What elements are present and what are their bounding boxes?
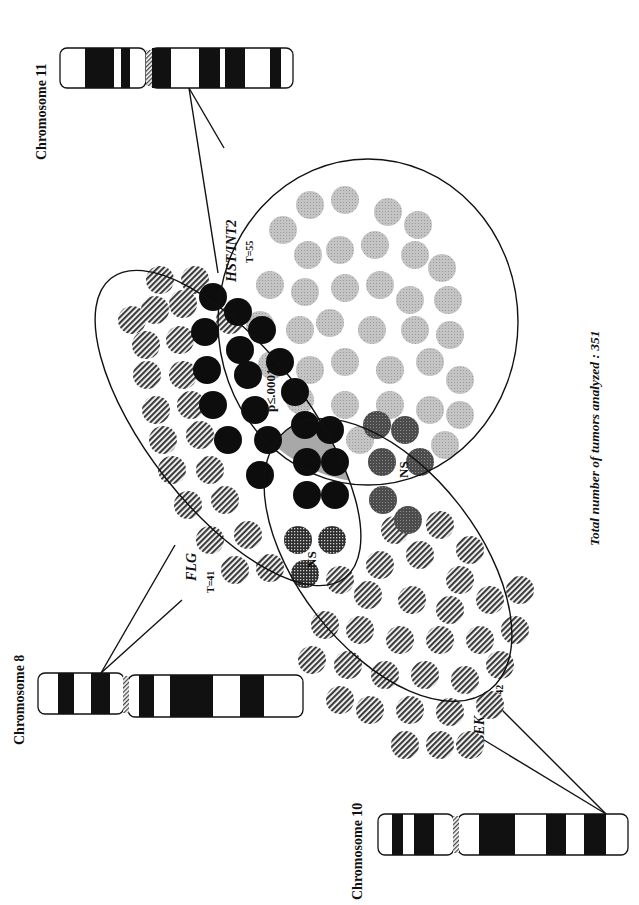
tumor-dot-bek-only bbox=[456, 536, 484, 564]
leader-line bbox=[101, 545, 175, 673]
chromosome-11-label: Chromosome 11 bbox=[34, 63, 49, 160]
tumor-dot-hst-bek bbox=[394, 506, 422, 534]
tumor-dot-triple bbox=[321, 481, 349, 509]
tumor-dot-hst-only bbox=[294, 241, 322, 269]
leader-line bbox=[101, 600, 182, 673]
gene-label-flg: FLG bbox=[184, 553, 199, 582]
tumor-dot-triple bbox=[293, 448, 321, 476]
tumor-dot-hst-only bbox=[404, 211, 432, 239]
tumor-dot-hst-only bbox=[331, 391, 359, 419]
tumor-dot-bek-only bbox=[426, 511, 454, 539]
tumor-dot-hst-flg bbox=[199, 391, 227, 419]
chromosome-11-ideogram bbox=[60, 48, 293, 88]
tumor-dot-flg-only bbox=[132, 331, 160, 359]
tumor-dot-bek-only bbox=[371, 661, 399, 689]
tumor-dot-bek-only bbox=[456, 731, 484, 759]
band bbox=[240, 675, 264, 717]
tumor-dot-bek-only bbox=[326, 566, 354, 594]
tumor-dot-flg-only bbox=[118, 306, 146, 334]
tumor-dot-hst-only bbox=[416, 396, 444, 424]
tumor-dot-hst-only bbox=[434, 286, 462, 314]
tumor-dot-hst-only bbox=[416, 348, 444, 376]
tumor-dot-hst-flg bbox=[234, 361, 262, 389]
tumor-dot-hst-flg bbox=[281, 378, 309, 406]
tumor-dot-hst-only bbox=[401, 316, 429, 344]
band bbox=[225, 48, 245, 88]
tumor-dot-hst-only bbox=[374, 198, 402, 226]
tumor-dot-bek-only bbox=[426, 626, 454, 654]
tumor-dot-flg-bek bbox=[318, 526, 346, 554]
tumor-dot-hst-only bbox=[291, 278, 319, 306]
tumor-dot-hst-only bbox=[269, 216, 297, 244]
tumor-dot-triple bbox=[321, 448, 349, 476]
tumor-dot-bek-only bbox=[426, 731, 454, 759]
band bbox=[392, 814, 403, 855]
tumor-dot-hst-only bbox=[286, 316, 314, 344]
chromosome-10-ideogram bbox=[378, 814, 628, 855]
tumor-dot-bek-only bbox=[446, 566, 474, 594]
chromosome-10: Chromosome 10 bbox=[350, 703, 628, 900]
tumor-dot-hst-only bbox=[361, 231, 389, 259]
tumor-dot-flg-bek bbox=[284, 526, 312, 554]
stat-label-hst-bek: NS bbox=[396, 461, 411, 478]
centromere bbox=[146, 50, 152, 86]
tumor-dot-hst-bek bbox=[368, 448, 396, 476]
band bbox=[414, 814, 434, 855]
tumor-count-hst-int2: T=55 bbox=[244, 241, 255, 263]
tumor-dot-hst-bek bbox=[391, 416, 419, 444]
tumor-dot-hst-only bbox=[358, 316, 386, 344]
tumor-dot-bek-only bbox=[436, 698, 464, 726]
tumor-dot-bek-only bbox=[346, 616, 374, 644]
tumor-dot-hst-only bbox=[256, 271, 284, 299]
tumor-dot-hst-flg bbox=[199, 283, 227, 311]
tumor-dot-hst-only bbox=[376, 356, 404, 384]
band bbox=[85, 48, 114, 88]
tumor-dot-hst-flg bbox=[193, 356, 221, 384]
tumor-dot-flg-only bbox=[166, 326, 194, 354]
tumor-dot-flg-only bbox=[211, 486, 239, 514]
tumor-dot-triple bbox=[293, 481, 321, 509]
tumor-dot-hst-flg bbox=[214, 426, 242, 454]
tumor-dot-hst-flg bbox=[254, 426, 282, 454]
tumor-dot-flg-only bbox=[149, 426, 177, 454]
tumor-dot-hst-only bbox=[296, 191, 324, 219]
tumor-dot-hst-only bbox=[396, 286, 424, 314]
tumor-dot-bek-only bbox=[396, 696, 424, 724]
band bbox=[479, 814, 515, 855]
tumor-dot-hst-only bbox=[446, 401, 474, 429]
chromosome-11: Chromosome 11 bbox=[34, 48, 293, 273]
tumor-dot-hst-only bbox=[326, 236, 354, 264]
tumor-dot-flg-only bbox=[186, 421, 214, 449]
tumor-dot-bek-only bbox=[398, 586, 426, 614]
tumor-dot-bek-only bbox=[451, 666, 479, 694]
tumor-dot-hst-only bbox=[316, 309, 344, 337]
tumor-dot-bek-only bbox=[298, 646, 326, 674]
tumor-dot-flg-only bbox=[196, 526, 224, 554]
band bbox=[546, 814, 566, 855]
tumor-dot-hst-bek bbox=[363, 411, 391, 439]
tumor-dot-flg-only bbox=[158, 456, 186, 484]
tumor-dot-hst-flg bbox=[226, 336, 254, 364]
tumor-dot-hst-bek bbox=[369, 486, 397, 514]
tumor-dot-bek-only bbox=[476, 586, 504, 614]
gene-label-hst-int2: HST/INT2 bbox=[224, 220, 239, 283]
tumor-dot-hst-only bbox=[401, 241, 429, 269]
tumor-dot-hst-flg bbox=[246, 461, 274, 489]
tumor-dot-bek-only bbox=[506, 576, 534, 604]
tumor-dots bbox=[118, 186, 534, 759]
tumor-dot-hst-only bbox=[428, 254, 456, 282]
leader-line bbox=[189, 88, 218, 273]
stat-label-hst-flg: p≤.0001 bbox=[263, 368, 278, 412]
tumor-dot-flg-only bbox=[146, 266, 174, 294]
tumor-dot-bek-only bbox=[501, 616, 529, 644]
tumor-dot-bek-only bbox=[391, 731, 419, 759]
centromere bbox=[453, 816, 459, 853]
band bbox=[199, 48, 220, 88]
band bbox=[58, 673, 74, 714]
tumor-dot-bek-only bbox=[354, 581, 382, 609]
tumor-dot-bek-only bbox=[411, 661, 439, 689]
chromosome-8-label: Chromosome 8 bbox=[12, 655, 27, 745]
band bbox=[121, 48, 130, 88]
tumor-dot-bek-only bbox=[386, 626, 414, 654]
total-tumors-label: Total number of tumors analyzed : 351 bbox=[587, 330, 602, 546]
